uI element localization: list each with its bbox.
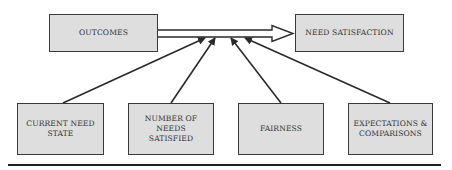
box-label-line1: CURRENT NEED <box>26 119 94 129</box>
box-label-line2: SATISFIED <box>129 134 213 144</box>
box-label-line1: NUMBER OF NEEDS <box>129 114 213 134</box>
need-satisfaction-box: NEED SATISFACTION <box>295 14 404 52</box>
box-label-line2: STATE <box>26 129 94 139</box>
current-need-state-box: CURRENT NEEDSTATE <box>17 103 104 155</box>
box-label-line2: COMPARISONS <box>354 129 428 139</box>
outcomes-label: OUTCOMES <box>79 28 128 38</box>
arrow-fairness <box>231 38 281 103</box>
need-satisfaction-label: NEED SATISFACTION <box>305 28 393 38</box>
arrow-number-needs <box>171 38 215 103</box>
box-label-line1: FAIRNESS <box>260 124 302 134</box>
expectations-box: EXPECTATIONS &COMPARISONS <box>348 103 433 155</box>
number-of-needs-box: NUMBER OF NEEDSSATISFIED <box>128 103 214 155</box>
main-arrow <box>157 26 293 42</box>
fairness-box: FAIRNESS <box>238 103 324 155</box>
box-label-line1: EXPECTATIONS & <box>354 119 428 129</box>
outcomes-box: OUTCOMES <box>49 14 158 52</box>
